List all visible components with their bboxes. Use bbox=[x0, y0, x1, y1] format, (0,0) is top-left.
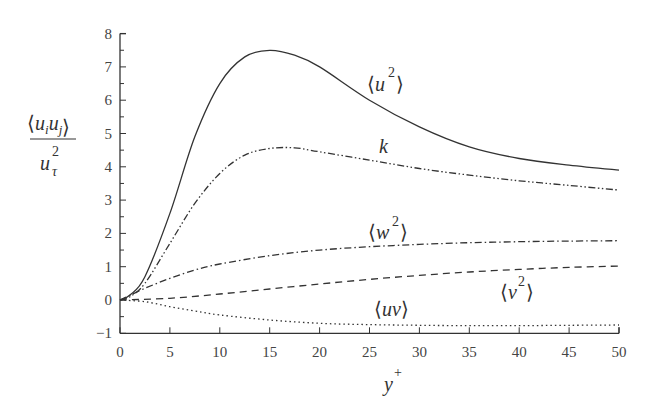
y-tick-label: 2 bbox=[105, 225, 113, 241]
series-line-4 bbox=[120, 300, 619, 326]
svg-text:⟨uiuj⟩: ⟨uiuj⟩ bbox=[27, 112, 70, 138]
svg-text:τ: τ bbox=[52, 164, 58, 179]
svg-text:⟨v: ⟨v bbox=[500, 281, 517, 303]
svg-text:⟨u: ⟨u bbox=[367, 73, 385, 95]
svg-text:⟩: ⟩ bbox=[526, 281, 534, 303]
svg-text:2: 2 bbox=[388, 65, 395, 80]
x-tick-label: 0 bbox=[116, 344, 124, 360]
svg-text:y: y bbox=[382, 373, 393, 396]
x-tick-label: 5 bbox=[166, 344, 174, 360]
y-tick-label: 0 bbox=[105, 292, 113, 308]
svg-text:2: 2 bbox=[518, 274, 525, 289]
svg-text:⟨uv⟩: ⟨uv⟩ bbox=[374, 298, 409, 320]
svg-text:⟨w: ⟨w bbox=[368, 221, 390, 243]
y-tick-label: 6 bbox=[105, 92, 113, 108]
svg-text:k: k bbox=[379, 135, 389, 157]
y-tick-label: 7 bbox=[105, 59, 113, 75]
x-tick-label: 20 bbox=[312, 344, 327, 360]
svg-text:⟩: ⟩ bbox=[400, 221, 408, 243]
svg-text:+: + bbox=[394, 365, 402, 380]
y-tick-label: 8 bbox=[105, 26, 113, 42]
x-tick-label: 50 bbox=[612, 344, 627, 360]
label-v2: ⟨v 2 ⟩ bbox=[500, 274, 534, 303]
svg-text:2: 2 bbox=[52, 144, 59, 159]
x-tick-label: 40 bbox=[512, 344, 527, 360]
axes: −101234567805101520253035404550 bbox=[96, 26, 626, 361]
label-u2: ⟨u 2 ⟩ bbox=[367, 65, 404, 95]
y-tick-label: 5 bbox=[105, 126, 113, 142]
x-tick-label: 30 bbox=[412, 344, 427, 360]
y-tick-label: −1 bbox=[96, 325, 112, 341]
y-axis-label: ⟨uiuj⟩ u 2 τ bbox=[27, 112, 76, 179]
x-tick-label: 45 bbox=[562, 344, 577, 360]
x-tick-label: 15 bbox=[262, 344, 277, 360]
label-k: k bbox=[379, 135, 389, 157]
svg-text:⟩: ⟩ bbox=[396, 73, 404, 95]
y-tick-label: 1 bbox=[105, 259, 113, 275]
label-w2: ⟨w 2 ⟩ bbox=[368, 214, 408, 243]
series-line-3 bbox=[120, 266, 619, 300]
y-tick-label: 3 bbox=[105, 192, 113, 208]
y-tick-label: 4 bbox=[105, 159, 113, 175]
x-tick-label: 10 bbox=[212, 344, 227, 360]
x-tick-label: 35 bbox=[462, 344, 477, 360]
svg-text:2: 2 bbox=[392, 214, 399, 229]
svg-text:u: u bbox=[40, 152, 50, 174]
series-line-2 bbox=[120, 241, 619, 300]
chart-svg: −101234567805101520253035404550 ⟨uiuj⟩ u… bbox=[0, 0, 653, 414]
x-tick-label: 25 bbox=[362, 344, 377, 360]
x-axis-label: y + bbox=[382, 365, 402, 396]
label-uv: ⟨uv⟩ bbox=[374, 298, 409, 320]
